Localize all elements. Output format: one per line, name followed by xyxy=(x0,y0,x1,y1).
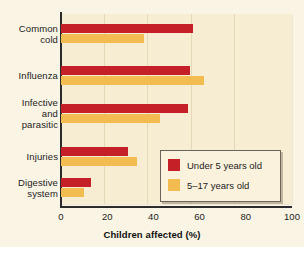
bar-under-5-3 xyxy=(61,104,188,113)
x-axis-title: Children affected (%) xyxy=(0,229,304,240)
bar-5-17-2 xyxy=(61,76,204,85)
bar-under-5-5 xyxy=(61,178,91,187)
x-tick-100: 100 xyxy=(277,211,304,222)
category-label-1: Commoncold xyxy=(0,23,58,45)
legend-item-under-5: Under 5 years old xyxy=(168,158,262,172)
bar-5-17-1 xyxy=(61,34,144,43)
x-tick-60: 60 xyxy=(185,211,215,222)
legend-swatch-yellow xyxy=(168,179,180,191)
category-label-4: Injuries xyxy=(0,151,58,162)
bar-under-5-1 xyxy=(61,24,193,33)
legend-item-5-17: 5–17 years old xyxy=(168,178,249,192)
x-tick-20: 20 xyxy=(92,211,122,222)
category-label-line: and xyxy=(0,108,58,119)
bar-5-17-4 xyxy=(61,157,137,166)
category-label-line: Common xyxy=(0,23,58,34)
category-label-2: Influenza xyxy=(0,70,58,81)
category-label-line: Infective xyxy=(0,97,58,108)
legend-label-5-17: 5–17 years old xyxy=(187,180,249,191)
x-tick-40: 40 xyxy=(138,211,168,222)
category-label-line: Digestive xyxy=(0,177,58,188)
bar-under-5-4 xyxy=(61,147,128,156)
legend-label-under-5: Under 5 years old xyxy=(187,160,262,171)
bar-5-17-3 xyxy=(61,114,160,123)
category-label-line: cold xyxy=(0,34,58,45)
category-label-3: Infectiveandparasitic xyxy=(0,97,58,130)
category-label-5: Digestivesystem xyxy=(0,177,58,199)
x-axis-line xyxy=(60,206,292,208)
x-tick-80: 80 xyxy=(231,211,261,222)
bar-under-5-2 xyxy=(61,66,190,75)
legend-swatch-red xyxy=(168,159,180,171)
bar-5-17-5 xyxy=(61,188,84,197)
category-label-line: parasitic xyxy=(0,119,58,130)
legend: Under 5 years old 5–17 years old xyxy=(160,150,281,202)
category-label-line: system xyxy=(0,188,58,199)
chart-figure: CommoncoldInfluenzaInfectiveandparasitic… xyxy=(0,0,304,259)
page-bottom-strip xyxy=(0,247,304,259)
category-label-line: Injuries xyxy=(0,151,58,162)
x-tick-0: 0 xyxy=(46,211,76,222)
category-label-line: Influenza xyxy=(0,70,58,81)
